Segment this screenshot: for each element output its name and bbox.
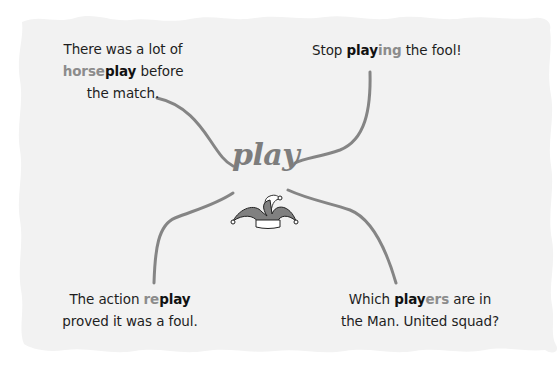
root-text: play — [394, 291, 425, 307]
example-text: are in — [449, 291, 491, 307]
example-text: the fool! — [401, 42, 461, 58]
root-text: play — [105, 63, 136, 79]
example-line: The action replay — [60, 288, 200, 310]
example-text: Which — [349, 291, 394, 307]
affix-text: ing — [378, 42, 402, 58]
example-line: There was a lot of — [56, 38, 190, 60]
example-line: the match. — [56, 82, 190, 104]
example-top-right: Stop playing the fool! — [312, 39, 462, 61]
example-top-left: There was a lot of horseplay before the … — [56, 38, 190, 104]
example-bottom-right: Which players are in the Man. United squ… — [340, 288, 500, 332]
example-text: before — [136, 63, 183, 79]
example-line: horseplay before — [56, 60, 190, 82]
root-text: play — [346, 42, 377, 58]
affix-text: horse — [63, 63, 105, 79]
affix-text: re — [144, 291, 160, 307]
example-bottom-left: The action replay proved it was a foul. — [60, 288, 200, 332]
affix-text: ers — [426, 291, 450, 307]
center-word: play — [232, 137, 299, 172]
example-line: Which players are in — [340, 288, 500, 310]
example-line: proved it was a foul. — [60, 310, 200, 332]
root-text: play — [159, 291, 190, 307]
example-text: The action — [69, 291, 143, 307]
example-text: Stop — [312, 42, 346, 58]
example-line: the Man. United squad? — [340, 310, 500, 332]
